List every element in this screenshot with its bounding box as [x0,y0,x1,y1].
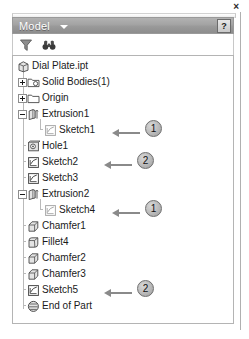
tree-line [24,177,26,178]
tree-item-label: Sketch2 [42,156,78,168]
find-icon[interactable] [41,37,57,53]
callout-badge-2a: 2 [137,152,154,169]
extrusion-icon [27,187,40,200]
panel-right-edge [240,12,241,330]
chamfer-icon [27,251,40,264]
tree-expander-plus[interactable] [18,94,27,103]
help-icon[interactable]: ? [217,19,231,33]
tree-line [41,129,43,130]
tree-item-label: Sketch5 [42,284,78,296]
sketch-icon [27,283,40,296]
callout-arrow [118,212,140,214]
tree-item-label: Chamfer2 [42,252,86,264]
tree-item-sketch4[interactable]: Sketch4 [13,202,233,218]
tree-item-label: End of Part [42,300,92,312]
extrusion-icon [27,107,40,120]
end-of-part-icon [27,299,40,312]
chamfer-icon [27,219,40,232]
tree-line [24,257,26,258]
part-document-icon [17,59,30,72]
tree-item-label: Sketch4 [59,204,95,216]
callout-badge-1a: 1 [145,120,162,137]
tree-item-sketch1[interactable]: Sketch1 [13,122,233,138]
tree-line [24,145,26,146]
callout-badge-2b: 2 [137,280,154,297]
tree-line [24,273,26,274]
tree-item-dial-plate-ipt[interactable]: Dial Plate.ipt [13,58,233,74]
tree-expander-minus[interactable] [18,110,27,119]
tree-item-sketch2[interactable]: Sketch2 [13,154,233,170]
chevron-down-icon[interactable] [60,25,68,29]
tree-line [24,241,26,242]
tree-item-sketch5[interactable]: Sketch5 [13,282,233,298]
tree-line [40,122,41,130]
panel-title: Model [19,20,50,32]
fillet-icon [27,235,40,248]
tree-item-chamfer3[interactable]: Chamfer3 [13,266,233,282]
tree-item-extrusion2[interactable]: Extrusion2 [13,186,233,202]
solid-bodies-folder-icon [27,75,40,88]
tree-item-label: Extrusion2 [42,188,89,200]
tree-item-chamfer2[interactable]: Chamfer2 [13,250,233,266]
tree-line [24,225,26,226]
tree-line [40,202,41,210]
chamfer-icon [27,267,40,280]
model-browser-tree[interactable]: Dial Plate.ipt Solid Bodies(1) Origin Ex… [12,55,234,324]
tree-expander-plus[interactable] [18,78,27,87]
model-panel-title-bar[interactable]: Model ? [12,17,234,34]
tree-line [24,161,26,162]
tree-item-label: Chamfer1 [42,220,86,232]
tree-item-origin[interactable]: Origin [13,90,233,106]
tree-item-fillet4[interactable]: Fillet4 [13,234,233,250]
tree-item-solid-bodies-1[interactable]: Solid Bodies(1) [13,74,233,90]
callout-badge-1b: 1 [145,200,162,217]
sketch-icon [27,155,40,168]
tree-item-label: Chamfer3 [42,268,86,280]
folder-icon [27,91,40,104]
callout-arrow [118,132,140,134]
model-panel-toolbar [12,34,234,55]
tree-item-label: Origin [42,92,69,104]
sketch-icon [44,123,57,136]
tree-item-sketch3[interactable]: Sketch3 [13,170,233,186]
tree-expander-minus[interactable] [18,190,27,199]
callout-arrow [110,292,132,294]
tree-line [24,305,26,306]
tree-line [41,209,43,210]
sketch-icon [44,203,57,216]
callout-arrow [110,164,132,166]
tree-item-hole1[interactable]: Hole1 [13,138,233,154]
tree-item-chamfer1[interactable]: Chamfer1 [13,218,233,234]
tree-item-end-of-part[interactable]: End of Part [13,298,233,314]
tree-item-label: Sketch1 [59,124,95,136]
tree-item-label: Hole1 [42,140,68,152]
tree-item-label: Dial Plate.ipt [32,60,88,72]
hole-icon [27,139,40,152]
tree-item-label: Sketch3 [42,172,78,184]
filter-icon[interactable] [18,37,34,53]
tree-item-label: Fillet4 [42,236,69,248]
window-close-row: × [0,0,249,14]
tree-item-label: Solid Bodies(1) [42,76,110,88]
close-icon[interactable]: × [233,1,239,12]
tree-line [24,289,26,290]
tree-item-label: Extrusion1 [42,108,89,120]
sketch-icon [27,171,40,184]
tree-item-extrusion1[interactable]: Extrusion1 [13,106,233,122]
